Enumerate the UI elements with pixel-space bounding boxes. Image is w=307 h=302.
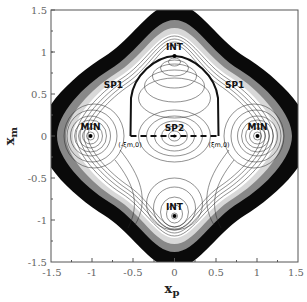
label-sp1-left: SP1 [104,80,123,90]
label-xi-left: (-ξm,0) [118,141,142,149]
y-axis-title: xm [2,126,19,145]
x-tick-label: -0.5 [123,267,142,278]
y-tick-label: 1.5 [31,5,47,16]
label-xi-right: (ξm,0) [208,141,229,149]
x-tick-label: 0 [171,267,177,278]
y-tick-label: 0.5 [31,89,47,100]
x-tick-label: 1.5 [288,267,304,278]
int-top-marker [173,54,177,58]
min-left-marker [89,134,93,138]
contour-chart: MIN MIN INT INT SP2 SP1 SP1 (-ξm,0) (ξm,… [0,0,307,302]
label-min-left: MIN [81,122,101,132]
x-tick-label: -1 [87,267,97,278]
min-right-marker [256,134,260,138]
label-min-right: MIN [248,122,268,132]
x-tick-label: -1.5 [42,267,61,278]
y-tick-label: -0.5 [28,173,47,184]
sp2-marker [173,135,176,138]
y-tick-label: -1 [37,215,47,226]
plot-area: MIN MIN INT INT SP2 SP1 SP1 (-ξm,0) (ξm,… [39,4,307,268]
label-sp1-right: SP1 [225,80,244,90]
y-tick-label: 0 [41,131,47,142]
x-axis-title: xp [165,281,180,298]
y-tick-label: 1 [41,47,47,58]
x-tick-label: 1 [254,267,260,278]
x-tick-label: 0.5 [208,267,224,278]
label-sp2: SP2 [165,123,184,133]
int-bottom-marker [173,214,177,218]
label-int-bottom: INT [166,202,184,212]
label-int-top: INT [166,42,184,52]
